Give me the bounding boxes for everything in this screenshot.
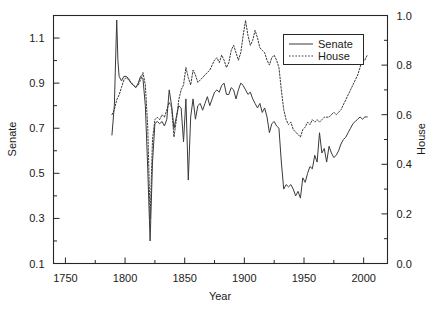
- y-left-tick-label: 0.7: [29, 122, 44, 134]
- x-tick-label: 1750: [53, 272, 77, 284]
- chart-container: 1750180018501900195020000.10.30.50.70.91…: [0, 0, 441, 313]
- y-right-tick-label: 0.0: [397, 258, 412, 270]
- x-tick-label: 1900: [232, 272, 256, 284]
- x-tick-label: 1850: [172, 272, 196, 284]
- y-axis-left-title: Senate: [6, 122, 18, 157]
- x-axis-title: Year: [209, 290, 232, 302]
- x-tick-label: 2000: [351, 272, 375, 284]
- legend-label-house: House: [318, 50, 350, 62]
- y-right-tick-label: 0.2: [397, 208, 412, 220]
- y-right-tick-label: 1.0: [397, 10, 412, 22]
- y-left-tick-label: 0.5: [29, 167, 44, 179]
- y-axis-right-title: House: [415, 123, 427, 155]
- x-tick-label: 1950: [292, 272, 316, 284]
- chart-background: [0, 0, 441, 313]
- y-left-tick-label: 0.1: [29, 258, 44, 270]
- line-chart: 1750180018501900195020000.10.30.50.70.91…: [0, 0, 441, 313]
- y-right-tick-label: 0.4: [397, 158, 412, 170]
- y-left-tick-label: 0.3: [29, 212, 44, 224]
- y-right-tick-label: 0.8: [397, 59, 412, 71]
- y-left-tick-label: 0.9: [29, 77, 44, 89]
- x-tick-label: 1800: [113, 272, 137, 284]
- legend-label-senate: Senate: [318, 38, 353, 50]
- chart-legend[interactable]: Senate House: [284, 35, 364, 65]
- y-left-tick-label: 1.1: [29, 32, 44, 44]
- y-right-tick-label: 0.6: [397, 109, 412, 121]
